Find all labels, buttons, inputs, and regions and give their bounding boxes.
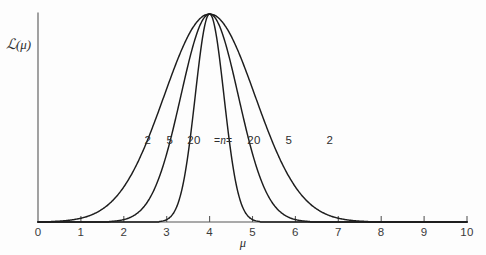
x-tick-label-6: 6: [292, 226, 299, 238]
x-tick-label-3: 3: [163, 226, 170, 238]
y-axis-label-argument: (μ): [16, 37, 31, 52]
x-tick-label-7: 7: [335, 226, 342, 238]
x-tick-label-10: 10: [460, 226, 473, 238]
x-tick-label-2: 2: [120, 226, 127, 238]
x-tick-label-8: 8: [378, 226, 385, 238]
curve-label-right-n-5: 5: [286, 134, 293, 146]
x-tick-label-4: 4: [206, 226, 213, 238]
curve-label-left-n-2: 2: [145, 134, 152, 146]
axes-group: [38, 13, 467, 222]
y-axis-label-script-l: ℒ: [6, 36, 16, 52]
curves-group: [38, 14, 467, 222]
x-tick-label-9: 9: [421, 226, 428, 238]
x-axis-ticks: [81, 216, 467, 222]
curve-label-left-n-20: 20: [187, 134, 201, 146]
n-equals-marker: =n=: [214, 134, 232, 146]
curve-n-2: [38, 14, 467, 222]
curve-label-right-n-20: 20: [247, 134, 261, 146]
likelihood-chart-figure: ℒ(μ) μ 012345678910 2520=n=2052: [0, 0, 486, 255]
chart-plot-area: [0, 0, 486, 255]
x-axis-label: μ: [240, 236, 246, 251]
y-axis-label: ℒ(μ): [6, 36, 31, 53]
x-tick-label-1: 1: [78, 226, 85, 238]
curve-n-20: [38, 14, 467, 222]
x-tick-label-5: 5: [249, 226, 256, 238]
curve-n-5: [38, 14, 467, 222]
n-marker-equals-right: =: [226, 134, 232, 146]
curve-label-right-n-2: 2: [327, 134, 334, 146]
curve-label-left-n-5: 5: [167, 134, 174, 146]
x-tick-label-0: 0: [35, 226, 42, 238]
